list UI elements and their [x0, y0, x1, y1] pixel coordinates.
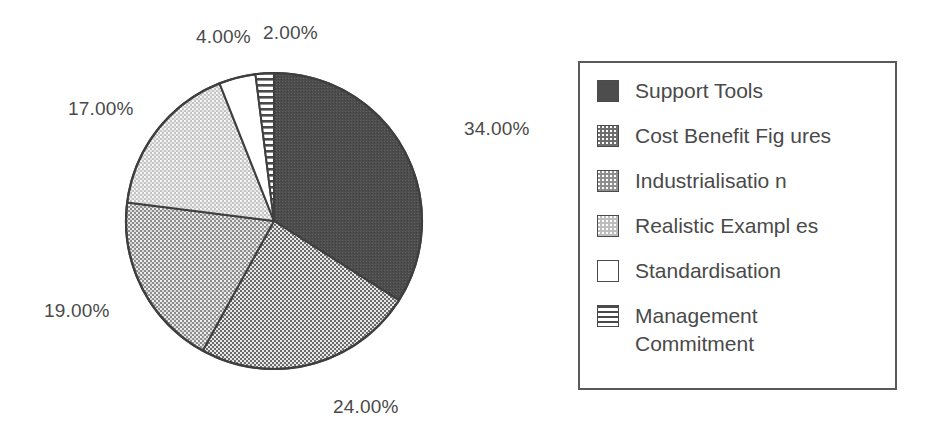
legend-item-standardisation[interactable]: Standardisation: [597, 257, 887, 285]
pct-label-support-tools: 34.00%: [464, 118, 530, 140]
legend-item-industrialisation[interactable]: Industrialisatio n: [597, 167, 887, 195]
pie-chart-plot-area: 4.00% 2.00% 17.00% 34.00% 19.00% 24.00%: [0, 0, 560, 446]
solid-dark-swatch-icon: [597, 80, 619, 102]
pct-label-realistic-examples: 17.00%: [68, 98, 134, 120]
dense-dot-swatch-icon: [597, 125, 619, 147]
legend-label: Support Tools: [635, 77, 763, 105]
mid-dot-swatch-icon: [597, 170, 619, 192]
legend-label: Industrialisatio n: [635, 167, 787, 195]
legend-item-management-commitment[interactable]: Management Commitment: [597, 302, 887, 358]
pie-chart-svg: [0, 0, 560, 446]
pie-chart-figure: 4.00% 2.00% 17.00% 34.00% 19.00% 24.00% …: [0, 0, 947, 446]
legend-label: Realistic Exampl es: [635, 212, 818, 240]
pct-label-cost-benefit-figures: 24.00%: [333, 396, 399, 418]
legend-label: Standardisation: [635, 257, 781, 285]
legend-label: Management Commitment: [635, 302, 758, 358]
legend-list: Support Tools Cost Benefit Fig ures Indu…: [597, 77, 887, 358]
pct-label-management-commitment: 2.00%: [263, 22, 318, 44]
pct-label-industrialisation: 19.00%: [44, 300, 110, 322]
legend-label: Cost Benefit Fig ures: [635, 122, 831, 150]
legend-box: Support Tools Cost Benefit Fig ures Indu…: [578, 61, 897, 390]
pct-label-standardisation: 4.00%: [196, 26, 251, 48]
light-dot-swatch-icon: [597, 215, 619, 237]
striped-swatch-icon: [597, 305, 619, 327]
legend-item-realistic-examples[interactable]: Realistic Exampl es: [597, 212, 887, 240]
white-swatch-icon: [597, 260, 619, 282]
legend-item-cost-benefit-figures[interactable]: Cost Benefit Fig ures: [597, 122, 887, 150]
legend-item-support-tools[interactable]: Support Tools: [597, 77, 887, 105]
